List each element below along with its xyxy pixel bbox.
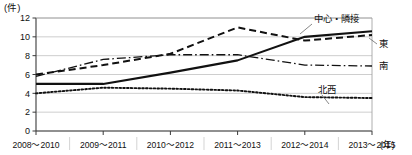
y-axis-ticks-group: 024681012 — [20, 13, 36, 136]
x-tick-label-2: 2010〜2012 — [147, 140, 194, 150]
series-label-1: 東 — [379, 38, 388, 49]
chart-canvas: 024681012 2008〜20102009〜20112010〜2012201… — [0, 0, 412, 155]
series-label-3: 北西 — [318, 84, 336, 95]
y-tick-label-0: 0 — [25, 126, 30, 136]
x-tick-label-3: 2011〜2013 — [214, 140, 261, 150]
series-label-leader-1 — [369, 38, 377, 44]
x-tick-label-1: 2009〜2011 — [80, 140, 127, 150]
y-tick-label-10: 10 — [20, 32, 30, 42]
x-axis-unit-label: (年) — [380, 139, 395, 150]
x-axis-ticks-group: 2008〜20102009〜20112010〜20122011〜20132012… — [12, 131, 395, 150]
series-label-0: 中心・隣接 — [314, 13, 360, 24]
series-label-leader-0 — [300, 24, 312, 34]
line-chart: 024681012 2008〜20102009〜20112010〜2012201… — [0, 0, 412, 155]
series-label-2: 南 — [379, 60, 388, 71]
y-tick-label-12: 12 — [20, 13, 30, 23]
y-tick-label-6: 6 — [25, 70, 30, 80]
series-line-0 — [36, 31, 372, 84]
y-tick-label-8: 8 — [25, 51, 30, 61]
y-axis-unit-label: (件) — [4, 2, 20, 13]
y-tick-label-2: 2 — [25, 107, 30, 117]
x-tick-label-0: 2008〜2010 — [12, 140, 59, 150]
x-tick-label-4: 2012〜2014 — [281, 140, 328, 150]
series-labels-group: 中心・隣接東南北西 — [300, 13, 388, 104]
y-tick-label-4: 4 — [25, 89, 30, 99]
series-label-leader-3 — [322, 95, 329, 104]
